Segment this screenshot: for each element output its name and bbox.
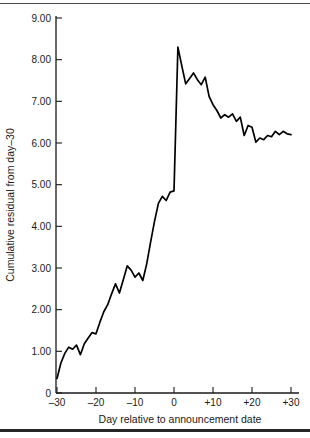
x-tick-label: –20 <box>88 397 105 408</box>
y-tick-label: 3.00 <box>32 263 52 274</box>
x-axis: –30–20–100+10+20+30 Day relative to anno… <box>49 387 300 425</box>
y-tick-label: 4.00 <box>32 221 52 232</box>
bottom-divider-rule <box>0 429 310 432</box>
y-tick-label: 8.00 <box>32 54 52 65</box>
x-tick-label: +20 <box>244 397 261 408</box>
y-tick-label: 6.00 <box>32 138 52 149</box>
x-tick-label: +10 <box>205 397 222 408</box>
y-tick-label: 9.00 <box>32 13 52 24</box>
x-tick-label: +30 <box>283 397 300 408</box>
x-axis-ticks <box>57 387 291 393</box>
data-series-group <box>57 47 291 378</box>
y-axis-title: Cumulative residual from day–30 <box>4 128 16 282</box>
figure-container: 01.002.003.004.005.006.007.008.009.00 Cu… <box>0 0 310 438</box>
y-tick-label: 5.00 <box>32 179 52 190</box>
y-tick-label: 7.00 <box>32 96 52 107</box>
x-axis-title: Day relative to announcement date <box>99 413 262 425</box>
x-tick-label: –10 <box>127 397 144 408</box>
x-tick-label: 0 <box>171 397 177 408</box>
y-tick-label: 1.00 <box>32 346 52 357</box>
y-axis: 01.002.003.004.005.006.007.008.009.00 Cu… <box>4 13 62 399</box>
x-axis-tick-labels: –30–20–100+10+20+30 <box>49 397 300 408</box>
x-tick-label: –30 <box>49 397 66 408</box>
y-axis-ticks <box>56 18 62 393</box>
y-tick-label: 2.00 <box>32 304 52 315</box>
cumulative-residual-line-chart: 01.002.003.004.005.006.007.008.009.00 Cu… <box>0 0 310 438</box>
y-axis-tick-labels: 01.002.003.004.005.006.007.008.009.00 <box>32 13 52 399</box>
series-cumulative-residual <box>57 47 291 378</box>
